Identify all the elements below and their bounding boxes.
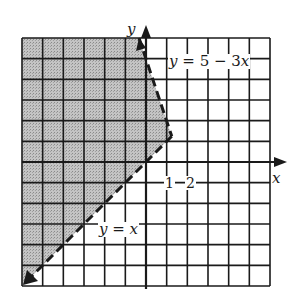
tick-label-2: 2 xyxy=(185,176,196,190)
x-axis-arrow-icon xyxy=(274,157,287,167)
tick-label-1: 1 xyxy=(164,176,175,190)
y-axis-label: y xyxy=(127,22,135,37)
line1-label: y = 5 − 3x xyxy=(168,54,250,69)
graph-plot xyxy=(0,0,297,304)
line2-label: y = x xyxy=(98,222,139,237)
x-axis-label: x xyxy=(272,171,280,186)
y-axis-arrow-icon xyxy=(141,25,151,38)
